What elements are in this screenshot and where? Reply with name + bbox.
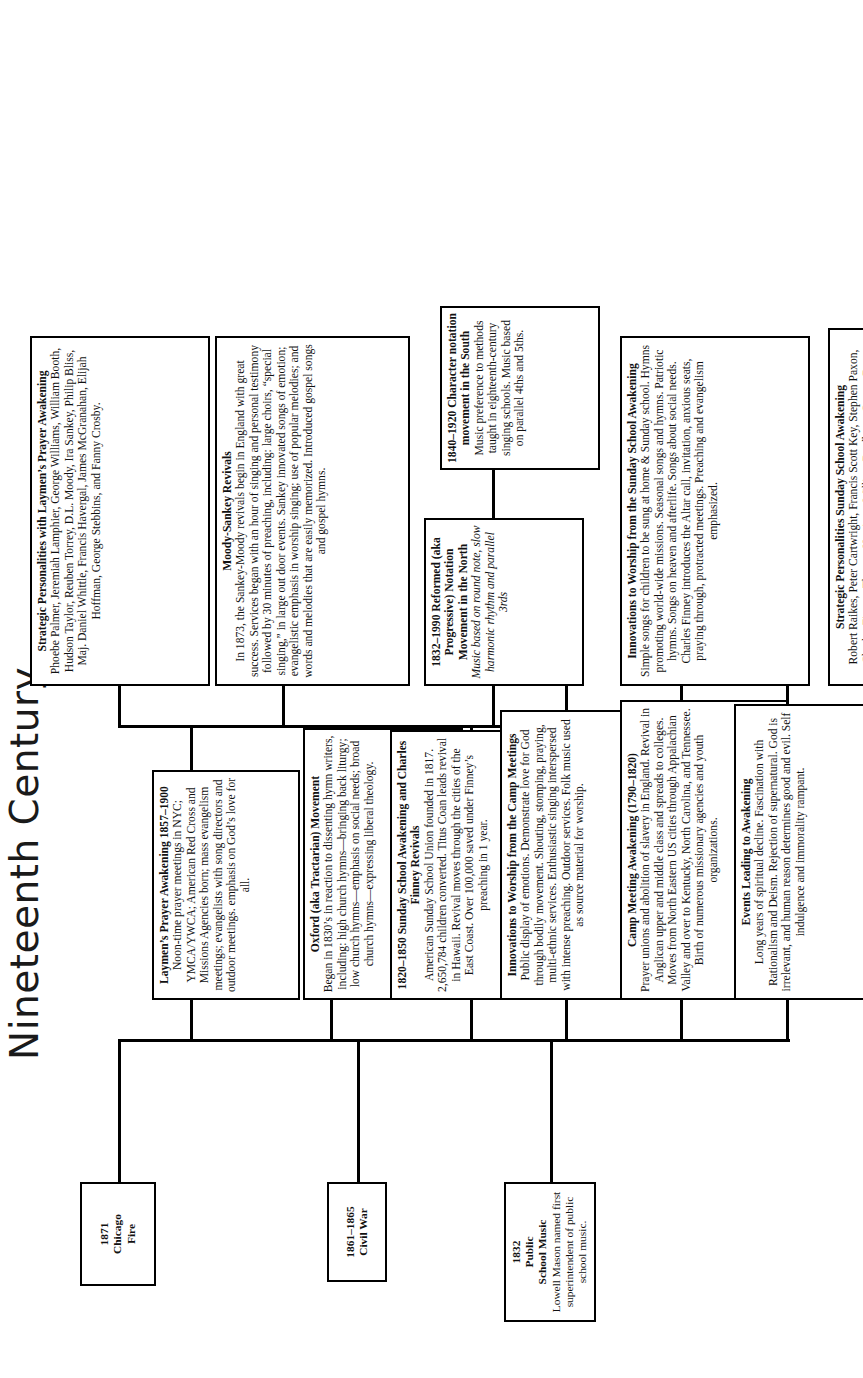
node-body-innovations-camp-meetings: Public display of emotions. Demonstrate … [519,717,586,993]
event-box-public-school-music[interactable]: 1832 Public School Music Lowell Mason na… [504,1182,596,1322]
event-body-public-school-music: Lowell Mason named first superintendent … [550,1189,590,1315]
connector-civil-war [357,1040,360,1182]
node-box-laymens-prayer-awakening[interactable]: Laymen’s Prayer Awakening 1857–1900 Noon… [152,770,300,1000]
node-title-innovations-camp-meetings: Innovations to Worship from the Camp Mee… [506,717,519,993]
diagram-canvas: Nineteenth Century 187 [0,0,863,1378]
node-box-innovations-sunday-school[interactable]: Innovations to Worship from the Sunday S… [620,336,810,686]
node-body-laymens-prayer-awakening: Noon-time prayer meetings in NYC; YMCA/Y… [171,777,252,993]
node-body-events-leading-to-awakening: Long years of spiritual decline. Fascina… [753,711,807,993]
node-box-events-leading-to-awakening[interactable]: Events Leading to Awakening Long years o… [734,704,863,1000]
node-title-events-leading-to-awakening: Events Leading to Awakening [740,711,753,993]
node-body-oxford-movement: Began in 1830’s in reaction to dissentin… [322,735,376,993]
node-title-moody-sankey-revivals: Moody-Sankey Revivals [221,343,234,679]
page-title: Nineteenth Century [2,667,47,1060]
connector-to-strategic-laymens [118,686,121,728]
connector-trunk-to-sundayschool [470,1000,473,1042]
node-box-reformed-notation-north[interactable]: 1832–1990 Reformed (aka Progressive) Not… [424,518,584,686]
connector-to-reformed-notation [492,686,495,728]
connector-trunk-main [118,1039,790,1042]
node-body-character-notation-south: Music preference to methods taught in ei… [473,313,527,463]
connector-trunk-to-eventsleading [786,1000,789,1042]
connector-trunk-to-campawakening [680,1000,683,1042]
node-title-sunday-school-awakening-finney: 1820–1850 Sunday School Awakening and Ch… [396,737,423,993]
node-title-strategic-personalities-sunday-school: Strategic Personalities Sunday School Aw… [834,335,847,679]
node-body-strategic-personalities-sunday-school: Robert Raikes, Peter Cartwright, Francis… [847,335,863,679]
event-box-chicago-fire[interactable]: 1871 Chicago Fire [80,1182,156,1286]
node-title-oxford-movement: Oxford (aka Tractarian) Movement [309,735,322,993]
node-title-character-notation-south: 1840–1920 Character notation movement in… [446,313,473,463]
connector-trunk-to-laymens [190,1000,193,1042]
node-title-laymens-prayer-awakening: Laymen’s Prayer Awakening 1857–1900 [158,777,171,993]
connector-notation-link [492,470,495,518]
node-body-camp-meeting-awakening: Prayer unions and abolition of slavery i… [639,707,720,993]
node-body-reformed-notation-north: Music based on round note, slow harmonic… [470,525,510,679]
node-body-innovations-sunday-school: Simple songs for children to be sung at … [639,343,720,679]
node-box-strategic-personalities-laymens[interactable]: Strategic Personalities with Laymen’s Pr… [30,336,210,686]
node-title-camp-meeting-awakening: Camp Meeting Awakening (1790–1820) [626,707,639,993]
node-box-strategic-personalities-sunday-school[interactable]: Strategic Personalities Sunday School Aw… [828,328,863,686]
connector-public-school-music [550,1040,553,1182]
connector-sec-in-laymens [190,726,193,770]
node-body-sunday-school-awakening-finney: American Sunday School Union founded in … [423,737,490,993]
node-title-reformed-notation-north: 1832–1990 Reformed (aka Progressive) Not… [430,525,470,679]
node-body-moody-sankey-revivals: In 1873, the Sankey-Moody revivals begin… [234,343,328,679]
connector-trunk-to-oxford [330,1000,333,1042]
connector-trunk-to-campinnov [565,1000,568,1042]
event-title-chicago-fire: 1871 Chicago Fire [98,1214,138,1254]
node-title-innovations-sunday-school: Innovations to Worship from the Sunday S… [626,343,639,679]
node-box-character-notation-south[interactable]: 1840–1920 Character notation movement in… [440,306,600,470]
node-body-strategic-personalities-laymens: Phoebe Palmer, Jeremiah Lamphier, George… [49,343,103,679]
connector-to-moody [282,686,285,728]
event-title-public-school-music: 1832 Public School Music [510,1189,550,1315]
node-title-strategic-personalities-laymens: Strategic Personalities with Laymen’s Pr… [36,343,49,679]
diagram-page: Nineteenth Century 187 [0,0,863,1378]
event-box-civil-war[interactable]: 1861–1865 Civil War [327,1182,387,1282]
event-title-civil-war: 1861–1865 Civil War [344,1206,370,1257]
node-box-moody-sankey-revivals[interactable]: Moody-Sankey Revivals In 1873, the Sanke… [215,336,410,686]
connector-chicago-fire [118,1040,121,1182]
